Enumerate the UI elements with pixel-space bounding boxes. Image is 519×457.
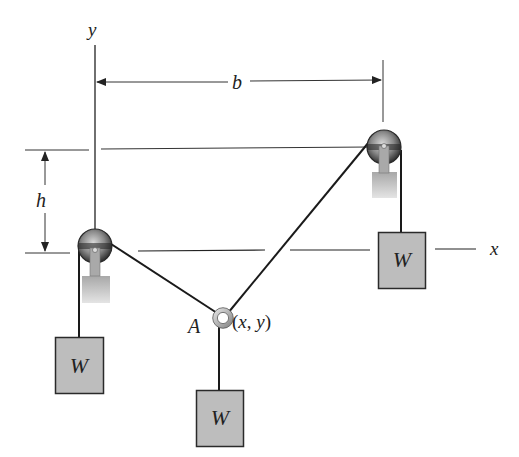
- point-a-coords: (x, y): [232, 311, 271, 333]
- point-a-label: A: [186, 315, 201, 337]
- cables: [79, 142, 401, 390]
- dimension-h: [25, 147, 370, 253]
- weight-right-label: W: [393, 247, 413, 272]
- weight-left-label: W: [70, 353, 90, 378]
- right-pulley-support: [372, 172, 397, 198]
- weight-middle: W: [197, 391, 244, 447]
- x-axis-label: x: [489, 238, 499, 259]
- right-pulley: [367, 130, 401, 198]
- weight-left: W: [56, 338, 104, 394]
- weight-right: W: [379, 233, 426, 289]
- weight-middle-label: W: [211, 405, 231, 430]
- dimension-b-label: b: [232, 71, 242, 93]
- y-axis-label: y: [86, 19, 97, 40]
- dimension-h-label: h: [36, 189, 46, 211]
- ring-a: [213, 308, 234, 329]
- left-pulley-support: [82, 276, 110, 303]
- pulley-diagram: y b h x: [0, 0, 519, 457]
- left-pulley: [78, 229, 112, 303]
